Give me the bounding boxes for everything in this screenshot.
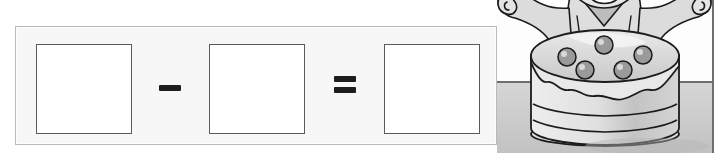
berry	[558, 48, 576, 66]
cake-illustration	[497, 0, 714, 153]
minus-symbol-text: −	[170, 79, 171, 80]
berry	[634, 46, 652, 64]
answer-box-operand-2[interactable]	[209, 44, 305, 134]
worksheet-page: − =	[0, 0, 720, 153]
equation-panel: − =	[15, 26, 497, 145]
cake-illustration-graphic	[497, 0, 712, 153]
berry	[595, 36, 613, 54]
equals-operator-icon: =	[334, 73, 356, 99]
minus-operator-icon: −	[159, 79, 181, 99]
berry	[614, 61, 632, 79]
answer-box-operand-1[interactable]	[36, 44, 132, 134]
equals-bar-bottom	[334, 87, 356, 93]
equals-bar-top	[334, 76, 356, 82]
answer-box-result[interactable]	[384, 44, 480, 134]
minus-bar	[159, 85, 181, 91]
equals-symbol-text: =	[345, 73, 346, 74]
berry	[576, 61, 594, 79]
